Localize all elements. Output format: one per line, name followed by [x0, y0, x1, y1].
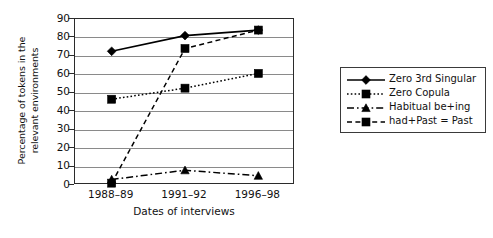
dashdot-triangle-swatch: [346, 100, 386, 114]
legend-label: had+Past = Past: [386, 115, 473, 127]
x-axis-tick-label: 1988–89: [76, 188, 146, 200]
series-line: [112, 30, 259, 183]
y-axis-title-line2: relevant environments: [28, 11, 41, 191]
chart-figure: Percentage of tokens in the relevant env…: [0, 0, 493, 238]
dashed-square-swatch: [346, 114, 386, 128]
data-point-marker: [181, 45, 189, 53]
y-axis-tick-label: 30: [42, 123, 70, 134]
y-axis-tick-label: 50: [42, 86, 70, 97]
data-point-marker: [254, 26, 262, 34]
y-axis-tick-label: 60: [42, 68, 70, 79]
chart-legend: Zero 3rd SingularZero CopulaHabitual be+…: [340, 67, 486, 133]
data-point-marker: [254, 69, 262, 77]
data-point-marker: [108, 179, 116, 187]
y-axis-tick-label: 90: [42, 13, 70, 24]
data-point-marker: [108, 95, 116, 103]
legend-item[interactable]: Habitual be+ing: [346, 100, 481, 114]
x-axis-tick-label: 1996–98: [222, 188, 292, 200]
legend-item[interactable]: Zero Copula: [346, 86, 481, 100]
x-axis-tick-labels: 1988–891991–921996–98: [74, 188, 294, 204]
y-axis-tick-label: 40: [42, 105, 70, 116]
y-axis-title-line1: Percentage of tokens in the: [16, 37, 27, 165]
y-axis-tick-label: 80: [42, 31, 70, 42]
data-point-marker: [254, 172, 262, 180]
series-had-past-past: [108, 26, 263, 187]
series-habitual-be-ing: [107, 166, 262, 183]
legend-item[interactable]: Zero 3rd Singular: [346, 72, 481, 86]
legend-label: Zero Copula: [386, 87, 450, 99]
y-axis-tick-label: 10: [42, 160, 70, 171]
y-axis-tick-label: 20: [42, 142, 70, 153]
y-axis-title: Percentage of tokens in the relevant env…: [16, 11, 41, 191]
data-point-marker: [107, 47, 116, 56]
legend-label: Zero 3rd Singular: [386, 73, 476, 85]
y-axis-tick-label: 70: [42, 49, 70, 60]
x-axis-tick-label: 1991–92: [149, 188, 219, 200]
dotted-square-swatch: [346, 86, 386, 100]
plot-area: [74, 18, 294, 184]
series-zero-copula: [108, 69, 263, 103]
solid-diamond-swatch: [346, 72, 386, 86]
data-point-marker: [181, 84, 189, 92]
legend-label: Habitual be+ing: [386, 101, 470, 113]
x-axis-title: Dates of interviews: [74, 205, 294, 217]
series-layer: [75, 19, 295, 185]
y-axis-tick-label: 0: [42, 179, 70, 190]
legend-item[interactable]: had+Past = Past: [346, 114, 481, 128]
y-axis-tick-labels: 0102030405060708090: [40, 0, 70, 238]
y-axis-tick-mark: [68, 184, 74, 185]
data-point-marker: [181, 31, 190, 40]
